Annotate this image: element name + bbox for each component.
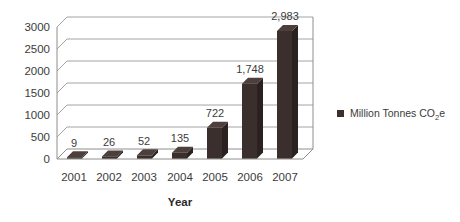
value-label-2004: 135 bbox=[171, 132, 189, 144]
legend-label: Million Tonnes CO2e bbox=[350, 107, 445, 122]
xtick-label-2006: 2006 bbox=[237, 171, 263, 183]
legend-label-main: Million Tonnes CO bbox=[350, 107, 435, 119]
xtick-label-2004: 2004 bbox=[167, 171, 193, 183]
xtick-label-2001: 2001 bbox=[61, 171, 87, 183]
chart-legend: Million Tonnes CO2e bbox=[337, 107, 445, 122]
ytick-label-2500: 2500 bbox=[24, 43, 50, 55]
xtick-label-2005: 2005 bbox=[202, 171, 228, 183]
gridline-1500 bbox=[57, 83, 313, 93]
ytick-label-3000: 3000 bbox=[24, 21, 50, 33]
value-label-2006: 1,748 bbox=[236, 63, 264, 75]
xtick-label-2002: 2002 bbox=[96, 171, 122, 183]
xtick-label-2003: 2003 bbox=[131, 171, 157, 183]
ytick-label-1500: 1500 bbox=[24, 87, 50, 99]
value-label-2007: 2,983 bbox=[271, 10, 299, 22]
gridline-1000 bbox=[57, 105, 313, 115]
ytick-label-1000: 1000 bbox=[24, 109, 50, 121]
ytick-label-0: 0 bbox=[44, 153, 50, 165]
value-label-2005: 722 bbox=[206, 107, 224, 119]
bar-2007[interactable] bbox=[277, 25, 298, 159]
gridline-2500 bbox=[57, 39, 313, 49]
legend-label-tail: e bbox=[439, 107, 445, 119]
value-label-2001: 9 bbox=[71, 137, 77, 149]
x-axis-title: Year bbox=[168, 196, 193, 208]
xtick-label-2007: 2007 bbox=[272, 171, 298, 183]
chart-canvas: 3000 2500 2000 1500 1000 500 0 9 26 52 1… bbox=[0, 0, 460, 222]
legend-square-marker bbox=[337, 110, 344, 117]
ytick-label-500: 500 bbox=[31, 131, 50, 143]
bar-2005[interactable] bbox=[207, 122, 228, 159]
value-labels: 9 26 52 135 722 1,748 2,983 bbox=[71, 10, 299, 149]
y-axis-labels: 3000 2500 2000 1500 1000 500 0 bbox=[24, 21, 50, 165]
value-label-2003: 52 bbox=[138, 135, 150, 147]
value-label-2002: 26 bbox=[103, 136, 115, 148]
gridline-2000 bbox=[57, 61, 313, 71]
ytick-label-2000: 2000 bbox=[24, 65, 50, 77]
bar-2006[interactable] bbox=[242, 78, 263, 159]
bar-chart: 3000 2500 2000 1500 1000 500 0 9 26 52 1… bbox=[0, 0, 460, 222]
x-axis-labels: 2001 2002 2003 2004 2005 2006 2007 bbox=[61, 171, 298, 183]
